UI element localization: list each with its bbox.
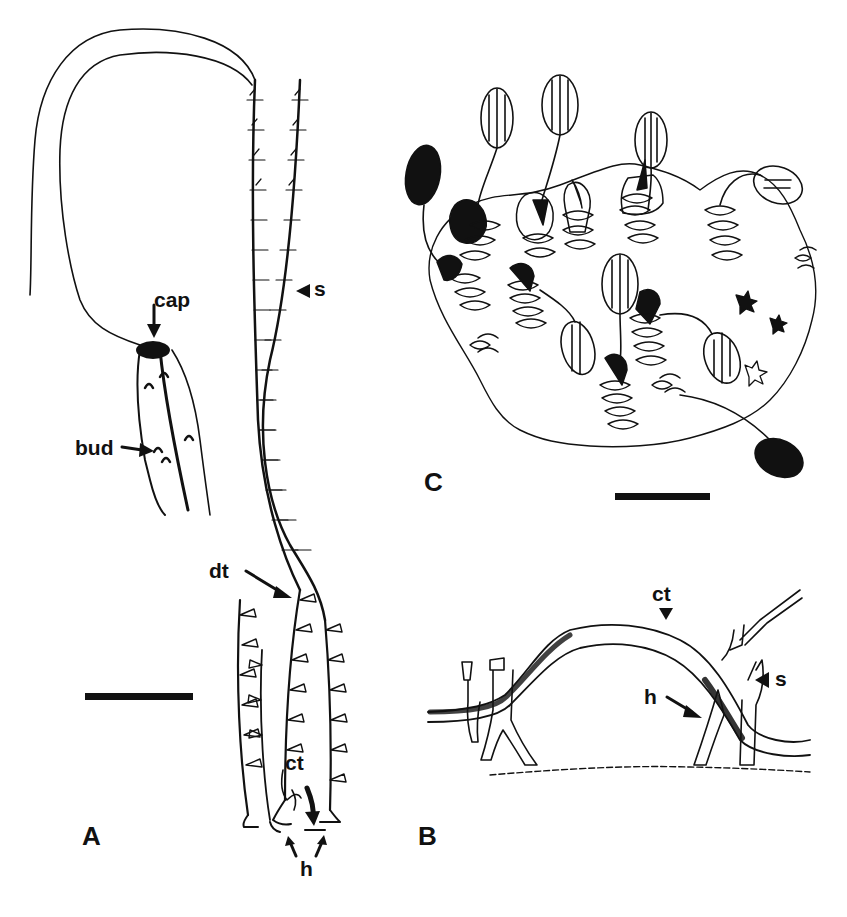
label-dt: dt <box>209 560 229 581</box>
label-bud: bud <box>75 437 113 458</box>
panel-c-drawing <box>401 75 816 500</box>
panel-label-a: A <box>82 823 101 849</box>
label-h-b: h <box>644 686 657 707</box>
label-cap: cap <box>154 289 190 310</box>
label-s-a: s <box>314 278 326 299</box>
figure-canvas <box>0 0 847 917</box>
label-h-a: h <box>300 858 313 879</box>
panel-label-b: B <box>418 823 437 849</box>
label-s-b: s <box>775 668 787 689</box>
panel-b-drawing <box>428 590 810 775</box>
panel-label-c: C <box>424 469 443 495</box>
label-ct-a: ct <box>285 752 304 773</box>
label-ct-b: ct <box>652 583 671 604</box>
